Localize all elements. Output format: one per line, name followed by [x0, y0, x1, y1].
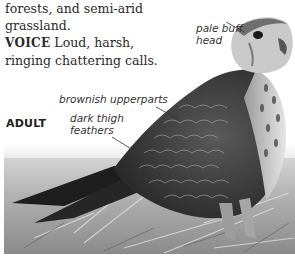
annotation-dark-thigh-feathers: dark thigh feathers: [70, 112, 124, 136]
voice-line-1: VOICE Loud, harsh,: [5, 34, 165, 52]
annotation-pale-buff-head: pale buff head: [196, 22, 243, 46]
age-label: ADULT: [6, 117, 46, 130]
species-description: forests, and semi-arid grassland. VOICE …: [5, 0, 165, 69]
voice-line-2: ringing chattering calls.: [5, 52, 165, 69]
voice-heading: VOICE: [5, 36, 50, 50]
habitat-line-2: grassland.: [5, 17, 165, 34]
voice-text: Loud, harsh,: [50, 35, 134, 50]
habitat-line-1: forests, and semi-arid: [5, 0, 165, 17]
annotation-brownish-upperparts: brownish upperparts: [59, 93, 168, 105]
